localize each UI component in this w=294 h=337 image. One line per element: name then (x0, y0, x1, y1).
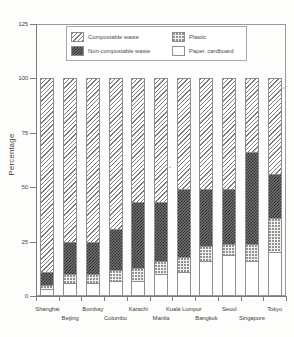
x-axis-labels: ShanghaiBeijingBombayColomboKarachiManil… (0, 302, 294, 332)
legend-swatch-diagonal-icon (71, 32, 84, 42)
x-tick (81, 296, 82, 301)
x-axis-label: Tokyo (245, 306, 294, 312)
bar[interactable] (199, 78, 213, 296)
bar-segment (222, 189, 236, 243)
x-tick (218, 296, 219, 301)
bar[interactable] (131, 78, 145, 296)
bar[interactable] (154, 78, 168, 296)
x-tick (286, 296, 287, 301)
bar-segment (40, 272, 54, 285)
bar-segment (268, 174, 282, 218)
x-tick (241, 296, 242, 301)
legend-label: Compostable waste (88, 34, 139, 40)
bar-segment (222, 244, 236, 255)
legend-label: Plastic (189, 34, 206, 40)
bar-segment (245, 244, 259, 261)
bar-segment (63, 283, 77, 296)
bar-segment (154, 261, 168, 274)
bar-segment (245, 152, 259, 243)
y-tick-label: 125 (0, 21, 28, 27)
bar-segment (199, 78, 213, 189)
legend-item-non-compostable-waste[interactable]: Non-compostable waste (71, 46, 172, 56)
bar-segment (177, 257, 191, 272)
bar-segment (268, 78, 282, 174)
legend-item-compostable-waste[interactable]: Compostable waste (71, 32, 172, 42)
bar-segment (109, 270, 123, 281)
bar[interactable] (63, 78, 77, 296)
y-tick-label: 75 (0, 130, 28, 136)
bar-segment (86, 283, 100, 296)
bar-segment (109, 229, 123, 270)
bar-segment (63, 78, 77, 241)
bar-segment (222, 78, 236, 189)
bar-segment (199, 246, 213, 261)
bar-segment (222, 255, 236, 296)
x-axis-label: Singapore (222, 315, 282, 321)
bar-segment (63, 274, 77, 283)
bar-segment (40, 78, 54, 272)
bar-segment (154, 274, 168, 296)
bar-segment (154, 202, 168, 261)
bar-segment (154, 78, 168, 202)
x-tick (263, 296, 264, 301)
bar-segment (268, 218, 282, 253)
bar-segment (245, 261, 259, 296)
bar-segment (86, 242, 100, 275)
x-tick (104, 296, 105, 301)
bar-segment (109, 281, 123, 296)
x-tick (172, 296, 173, 301)
y-tick-labels: 0255075100125 (0, 0, 28, 337)
bars-area (36, 24, 286, 296)
bar-segment (199, 261, 213, 296)
y-tick-label: 25 (0, 239, 28, 245)
bar-segment (131, 78, 145, 202)
legend-swatch-blank-icon (172, 46, 185, 56)
bar-segment (109, 78, 123, 228)
bar-segment (199, 189, 213, 246)
x-tick (36, 296, 37, 301)
x-axis-line (36, 296, 286, 297)
bar-segment (131, 268, 145, 281)
bar-segment (63, 242, 77, 275)
chart-root: • Percentage 0255075100125 ShanghaiBeiji… (0, 0, 294, 337)
legend-label: Paper, cardboard (189, 48, 233, 54)
bar[interactable] (109, 78, 123, 296)
legend-item-paper-cardboard[interactable]: Paper, cardboard (172, 46, 242, 56)
legend-swatch-checkerboard-icon (71, 46, 84, 56)
bar[interactable] (86, 78, 100, 296)
bar-segment (131, 281, 145, 296)
bar-segment (40, 289, 54, 296)
legend-row: Compostable waste Plastic (71, 30, 242, 44)
x-tick (150, 296, 151, 301)
bar-segment (177, 78, 191, 189)
bar-segment (86, 78, 100, 241)
y-tick-label: 50 (0, 184, 28, 190)
x-tick (127, 296, 128, 301)
x-tick (59, 296, 60, 301)
bar-segment (177, 272, 191, 296)
bar-segment (268, 252, 282, 296)
legend-row: Non-compostable waste Paper, cardboard (71, 44, 242, 58)
legend-swatch-dotted-icon (172, 32, 185, 42)
legend-label: Non-compostable waste (88, 48, 150, 54)
bar-segment (86, 274, 100, 283)
bar[interactable] (222, 78, 236, 296)
bar[interactable] (245, 78, 259, 296)
bar-segment (131, 202, 145, 267)
bar[interactable] (177, 78, 191, 296)
y-tick-label: 100 (0, 75, 28, 81)
bar-segment (245, 78, 259, 152)
legend: Compostable waste Plastic Non-compostabl… (66, 26, 247, 61)
bar[interactable] (40, 78, 54, 296)
legend-item-plastic[interactable]: Plastic (172, 32, 242, 42)
x-tick (195, 296, 196, 301)
bar[interactable] (268, 78, 282, 296)
bar-segment (177, 189, 191, 256)
y-tick-label: 0 (0, 293, 28, 299)
